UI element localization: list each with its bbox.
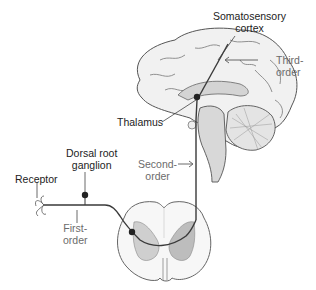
receptor-icon (35, 196, 46, 216)
label-line: First- (63, 222, 88, 234)
label-somatosensory-cortex: Somatosensory cortex (213, 10, 286, 34)
label-dorsal-root-ganglion: Dorsal root ganglion (66, 147, 117, 171)
label-receptor: Receptor (15, 173, 58, 185)
label-line: order (138, 170, 177, 182)
diagram-illustration (0, 0, 316, 290)
label-first-order: First- order (63, 222, 88, 246)
label-line: Dorsal root (66, 147, 117, 159)
label-line: cortex (213, 22, 286, 34)
label-line: order (276, 66, 303, 78)
label-line: order (63, 234, 88, 246)
label-line: ganglion (66, 159, 117, 171)
label-line: Second- (138, 158, 177, 170)
dorsal-root-ganglion-dot (82, 192, 88, 198)
synapse-dot-thalamus (194, 94, 200, 100)
label-line: Somatosensory (213, 10, 286, 22)
label-thalamus: Thalamus (117, 116, 163, 128)
label-third-order: Third- order (276, 54, 303, 78)
spinal-cord-cross-section (118, 202, 211, 281)
synapse-dot-spinal (129, 229, 135, 235)
somatosensory-pathway-diagram: Somatosensory cortex Third- order Thalam… (0, 0, 316, 290)
label-line: Third- (276, 54, 303, 66)
label-second-order: Second- order (138, 158, 177, 182)
